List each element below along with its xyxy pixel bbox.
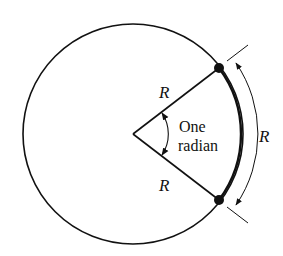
radian-diagram: R R R One radian: [0, 0, 283, 256]
label-angle-line1: One: [179, 118, 206, 135]
extension-line-upper: [227, 45, 248, 61]
arc-length-dimension-arrow: [236, 63, 258, 205]
extension-line-lower: [227, 207, 248, 223]
radius-upper: [133, 68, 219, 134]
label-radius-lower: R: [158, 176, 170, 195]
point-lower: [214, 195, 224, 205]
label-arc-length: R: [258, 127, 270, 146]
diagram-svg: R R R One radian: [0, 0, 283, 256]
subtended-arc: [219, 68, 241, 200]
label-angle-line2: radian: [178, 137, 218, 154]
point-upper: [214, 63, 224, 73]
angle-arrow: [162, 113, 168, 155]
label-radius-upper: R: [158, 83, 170, 102]
